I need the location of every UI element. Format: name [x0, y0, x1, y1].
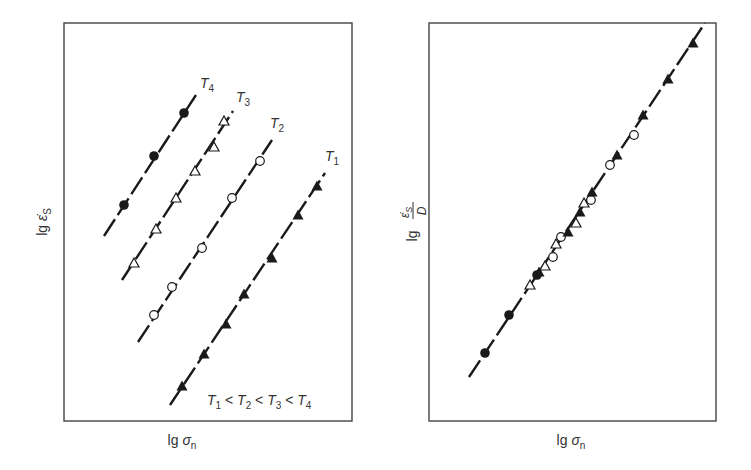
filled-circle-marker [480, 348, 490, 358]
filled-triangle-marker [663, 74, 674, 84]
series-label-t2: T2 [270, 115, 285, 134]
filled-triangle-marker [575, 207, 586, 217]
right-y-axis-label: lg ε̇S D [398, 202, 429, 241]
open-triangle-marker [151, 224, 161, 233]
right-x-axis-label: lg σn [557, 432, 586, 451]
open-circle-marker [606, 161, 615, 170]
left-panel: T4T3T2T1 [64, 23, 352, 421]
open-circle-marker [630, 131, 639, 140]
svg-text:lg: lg [404, 231, 420, 242]
open-triangle-marker [129, 258, 139, 267]
filled-circle-marker [179, 108, 189, 118]
filled-circle-marker [119, 200, 129, 210]
series-t3: T3 [122, 89, 251, 280]
left-x-axis-label: lg σn [168, 432, 197, 451]
open-circle-marker [587, 196, 596, 205]
fit-line-t2 [138, 140, 272, 342]
open-circle-marker [150, 311, 159, 320]
open-circle-marker [168, 283, 177, 292]
right-panel [429, 23, 716, 421]
series-t4: T4 [104, 75, 215, 236]
filled-triangle-marker [688, 38, 699, 48]
svg-text:D: D [415, 206, 429, 215]
svg-text:ε̇S: ε̇S [398, 207, 414, 218]
open-circle-marker [228, 194, 237, 203]
series-label-t3: T3 [236, 89, 251, 108]
figure: T4T3T2T1 lg σn lg ε̇S lg σn lg ε̇S D T1 … [0, 0, 751, 470]
series-label-t1: T1 [325, 148, 340, 167]
filled-triangle-marker [221, 319, 232, 329]
temperature-order-annotation: T1 < T2 < T3 < T4 [207, 392, 312, 411]
open-circle-marker [549, 253, 558, 262]
filled-triangle-marker [293, 210, 304, 220]
open-triangle-marker [190, 166, 200, 175]
filled-circle-marker [504, 310, 514, 320]
open-circle-marker [198, 244, 207, 253]
filled-triangle-marker [312, 181, 323, 191]
fit-line-t1 [170, 173, 325, 405]
filled-triangle-marker [612, 150, 623, 160]
filled-circle-marker [149, 151, 159, 161]
series-t1: T1 [170, 148, 340, 405]
open-triangle-marker [540, 261, 550, 270]
open-circle-marker [256, 157, 265, 166]
series-label-t4: T4 [200, 75, 215, 94]
filled-triangle-marker [563, 227, 574, 237]
left-y-axis-label: lg ε̇S [34, 208, 53, 236]
